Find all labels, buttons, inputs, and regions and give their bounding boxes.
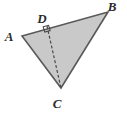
geometry-figure: A B C D: [0, 0, 127, 114]
vertex-label-b: B: [107, 0, 117, 14]
triangle-diagram-svg: A B C D: [0, 0, 127, 114]
vertex-label-a: A: [4, 29, 14, 44]
vertex-label-c: C: [53, 96, 62, 111]
vertex-label-d: D: [36, 11, 47, 26]
